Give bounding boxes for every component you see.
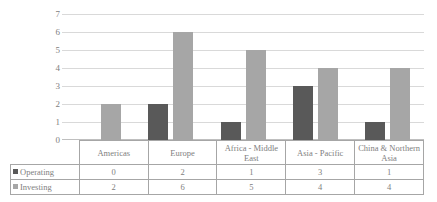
table-header-cell: Asia - Pacific: [286, 141, 355, 165]
bar-operating: [293, 86, 313, 140]
y-axis-tick: 7: [40, 10, 60, 19]
operating-swatch-icon: [13, 169, 18, 174]
legend-label: Investing: [20, 183, 52, 193]
legend-item-investing: Investing: [11, 180, 80, 195]
table-cell: 1: [217, 165, 286, 180]
table-cell: 1: [355, 165, 424, 180]
table-cell: 2: [79, 180, 148, 195]
table-corner-cell: [11, 141, 80, 165]
y-axis: 7 6 5 4 3 2 1 0: [40, 14, 60, 140]
bar-chart-with-data-table: 7 6 5 4 3 2 1 0: [0, 0, 437, 202]
table-header-row: Americas Europe Africa - Middle East Asi…: [11, 141, 424, 165]
investing-swatch-icon: [13, 184, 18, 189]
y-axis-tick: 4: [40, 64, 60, 73]
table-header-cell: Africa - Middle East: [217, 141, 286, 165]
bar-group-china-northern-asia: [352, 14, 424, 140]
bar-investing: [390, 68, 410, 140]
bar-operating: [365, 122, 385, 140]
y-axis-tick: 5: [40, 46, 60, 55]
table-row: Operating 0 2 1 3 1: [11, 165, 424, 180]
bar-operating: [221, 122, 241, 140]
table-cell: 5: [217, 180, 286, 195]
bar-group-europe: [134, 14, 206, 140]
table-cell: 0: [79, 165, 148, 180]
table-cell: 4: [355, 180, 424, 195]
bar-investing: [101, 104, 121, 140]
legend-item-operating: Operating: [11, 165, 80, 180]
table-cell: 2: [148, 165, 217, 180]
bar-investing: [173, 32, 193, 140]
bar-operating: [148, 104, 168, 140]
y-axis-tick: 1: [40, 118, 60, 127]
y-axis-tick: 3: [40, 82, 60, 91]
legend-label: Operating: [20, 168, 54, 178]
bar-group-asia-pacific: [279, 14, 351, 140]
bar-groups: [62, 14, 424, 140]
data-table: Americas Europe Africa - Middle East Asi…: [10, 140, 424, 195]
table-cell: 6: [148, 180, 217, 195]
bar-group-americas: [62, 14, 134, 140]
table-header-cell: China & Northern Asia: [355, 141, 424, 165]
table-row: Investing 2 6 5 4 4: [11, 180, 424, 195]
table-cell: 3: [286, 165, 355, 180]
bar-investing: [318, 68, 338, 140]
y-axis-tick: 2: [40, 100, 60, 109]
table-cell: 4: [286, 180, 355, 195]
y-axis-tick: 6: [40, 28, 60, 37]
table-header-cell: Europe: [148, 141, 217, 165]
bar-group-africa-middle-east: [207, 14, 279, 140]
bar-investing: [246, 50, 266, 140]
table-header-cell: Americas: [79, 141, 148, 165]
